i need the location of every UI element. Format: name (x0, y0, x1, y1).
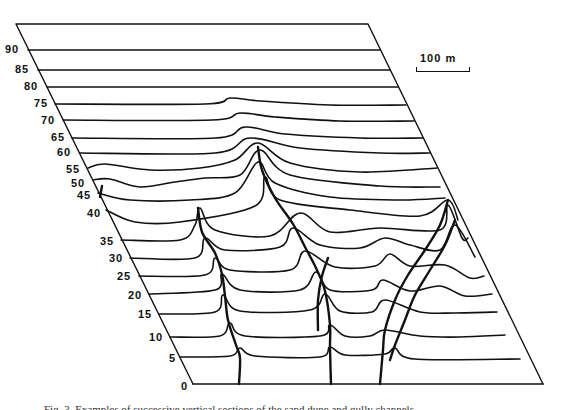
scale-bar (416, 67, 470, 72)
ridge-traces (100, 147, 455, 384)
profile-line-70 (63, 113, 414, 121)
section-label-35: 35 (100, 236, 114, 247)
section-label-0: 0 (181, 381, 188, 392)
section-label-5: 5 (169, 353, 176, 364)
profile-line-10 (170, 323, 505, 338)
section-label-75: 75 (34, 98, 48, 109)
section-label-25: 25 (117, 271, 131, 282)
section-label-15: 15 (138, 309, 152, 320)
section-label-80: 80 (24, 81, 38, 92)
profile-line-45 (98, 162, 445, 201)
section-label-70: 70 (41, 115, 55, 126)
profile-line-5 (180, 347, 520, 360)
section-label-50: 50 (71, 178, 85, 189)
section-label-40: 40 (87, 208, 101, 219)
section-label-45: 45 (77, 190, 91, 201)
ridge-a-trace (258, 147, 331, 384)
section-label-30: 30 (109, 253, 123, 264)
profile-line-75 (55, 98, 406, 105)
section-profiles (28, 50, 543, 384)
section-label-55: 55 (66, 164, 80, 175)
figure-caption: Fig. 3. Examples of successive vertical … (44, 402, 564, 410)
ridge-f-trace (100, 186, 102, 197)
section-label-60: 60 (57, 147, 71, 158)
oblique-section-figure (0, 0, 568, 410)
section-label-65: 65 (51, 132, 65, 143)
section-label-20: 20 (128, 290, 142, 301)
section-label-10: 10 (149, 332, 163, 343)
section-label-90: 90 (5, 44, 19, 55)
profile-line-65 (72, 127, 423, 139)
scale-bar-label: 100 m (420, 52, 456, 64)
section-label-85: 85 (15, 64, 29, 75)
